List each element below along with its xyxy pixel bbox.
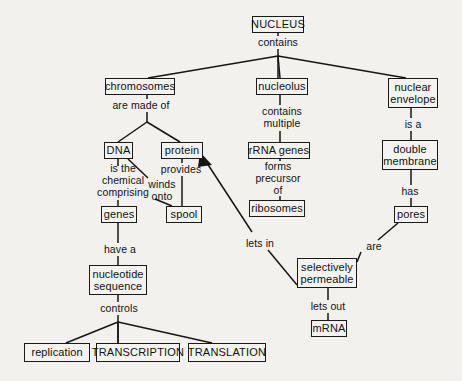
node-genes[interactable]: genes bbox=[101, 206, 137, 223]
edge-lets-in-protein bbox=[205, 160, 252, 232]
link-label-are-made-of: are made of bbox=[110, 99, 172, 111]
node-pores[interactable]: pores bbox=[394, 206, 428, 223]
edge-contains-nuclear-envelope bbox=[278, 56, 406, 78]
edge-controls-translation bbox=[118, 322, 212, 343]
node-nuclear-envelope[interactable]: nuclear envelope bbox=[388, 78, 438, 108]
node-spool[interactable]: spool bbox=[166, 206, 202, 223]
link-label-contains: contains bbox=[250, 36, 306, 48]
node-transcription[interactable]: TRANSCRIPTION bbox=[96, 343, 180, 362]
link-label-are: are bbox=[362, 240, 386, 252]
link-label-winds-onto: winds onto bbox=[144, 178, 180, 202]
link-label-lets-out: lets out bbox=[305, 300, 351, 312]
node-replication[interactable]: replication bbox=[24, 343, 90, 362]
edge-contains-chromosomes bbox=[148, 56, 278, 78]
edge-are-selectively-permeable bbox=[357, 252, 361, 262]
node-double-membrane[interactable]: double membrane bbox=[382, 140, 438, 170]
edge-pores-are bbox=[378, 223, 398, 240]
node-protein[interactable]: protein bbox=[161, 142, 203, 159]
link-label-controls: controls bbox=[95, 302, 143, 314]
concept-map-canvas: NUCLEUS chromosomes nucleolus nuclear en… bbox=[0, 0, 462, 381]
node-nucleolus[interactable]: nucleolus bbox=[256, 78, 308, 95]
node-ribosomes[interactable]: ribosomes bbox=[249, 200, 305, 217]
node-nucleotide-sequence[interactable]: nucleotide sequence bbox=[89, 265, 147, 295]
link-label-lets-in: lets in bbox=[240, 237, 280, 249]
edge-controls-replication bbox=[66, 322, 118, 343]
node-translation[interactable]: TRANSLATION bbox=[188, 343, 266, 362]
link-label-forms-precursor-of: forms precursor of bbox=[248, 160, 308, 196]
link-label-contains-multiple: contains multiple bbox=[253, 105, 311, 129]
edge-chromosomes-dna bbox=[118, 122, 147, 142]
node-rrna-genes[interactable]: rRNA genes bbox=[248, 142, 310, 159]
edge-chromosomes-protein bbox=[147, 122, 180, 142]
concept-map-edges bbox=[0, 0, 462, 381]
link-label-is-a: is a bbox=[396, 118, 430, 130]
edge-contains-nucleolus bbox=[278, 56, 280, 78]
node-chromosomes[interactable]: chromosomes bbox=[105, 78, 175, 95]
edge-permeable-lets-in bbox=[268, 250, 297, 285]
node-dna[interactable]: DNA bbox=[104, 142, 133, 159]
node-mrna[interactable]: mRNA bbox=[311, 320, 347, 337]
link-label-has: has bbox=[396, 185, 424, 197]
node-selectively-permeable[interactable]: selectively permeable bbox=[297, 258, 357, 288]
link-label-have-a: have a bbox=[99, 243, 141, 255]
node-nucleus[interactable]: NUCLEUS bbox=[252, 16, 304, 33]
link-label-provides: provides bbox=[155, 163, 207, 175]
